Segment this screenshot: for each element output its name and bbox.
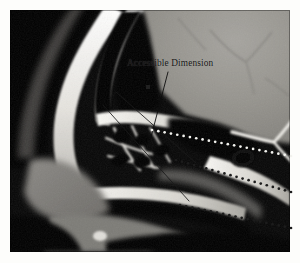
accessible-dimension-label: Accessible Dimension [127,57,213,69]
ct-image-panel [10,10,290,252]
ct-scan-image [10,10,290,252]
figure-root: Accessible Dimension [0,0,300,263]
